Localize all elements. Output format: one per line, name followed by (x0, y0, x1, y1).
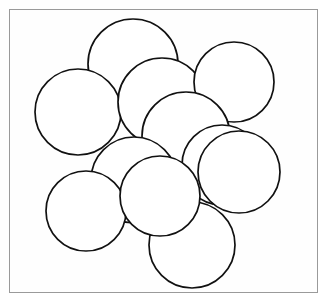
circle-group (35, 19, 280, 288)
circle-left-upper (35, 69, 121, 155)
circle-bottom-left (46, 171, 126, 251)
circle-right-outer (198, 131, 280, 213)
circle-lower-mid (120, 156, 200, 236)
diagram-stage (0, 0, 333, 300)
circle-packing-svg (0, 0, 333, 300)
